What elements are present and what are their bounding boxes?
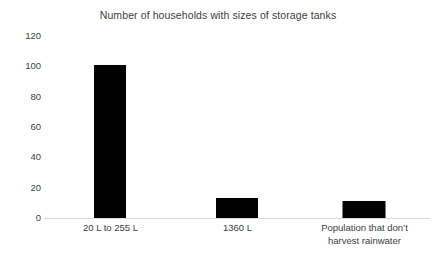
bar-20-l-to-255-l [94,65,126,218]
chart-title: Number of households with sizes of stora… [0,9,436,21]
bar-slot [47,36,174,218]
bar-1360-l [216,198,258,218]
x-axis-label-line: 20 L to 255 L [47,222,174,235]
bar-chart: Number of households with sizes of stora… [0,0,436,264]
y-axis-tick-label: 100 [0,62,41,72]
bar-slot [301,36,428,218]
y-axis-tick-label: 120 [0,31,41,41]
plot-area [47,36,428,218]
x-axis-line [44,218,430,219]
bar-population-that-dont-harvest-rainwater [343,201,386,218]
y-axis-tick-label: 80 [0,92,41,102]
y-axis-tick-label: 40 [0,153,41,163]
y-axis-tick-label: 0 [0,213,41,223]
x-axis-label-line: harvest rainwater [301,235,428,248]
x-axis-label-line: 1360 L [174,222,301,235]
x-axis-label-line: Population that don’t [301,222,428,235]
y-axis: 120 100 80 60 40 20 0 [0,36,41,218]
bar-slot [174,36,301,218]
x-axis-category-label: 1360 L [174,222,301,235]
y-axis-tick-label: 60 [0,122,41,132]
x-axis-category-label: Population that don’t harvest rainwater [301,222,428,247]
x-axis: 20 L to 255 L 1360 L Population that don… [47,222,428,262]
x-axis-category-label: 20 L to 255 L [47,222,174,235]
y-axis-tick-label: 20 [0,183,41,193]
